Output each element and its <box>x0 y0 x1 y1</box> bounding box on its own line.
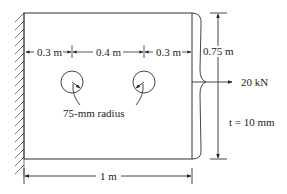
holes <box>61 71 155 105</box>
height-brace <box>192 13 206 159</box>
plate <box>24 13 192 159</box>
plate-diagram <box>0 0 287 194</box>
height-label: 0.75 m <box>202 46 235 57</box>
left-gap-label: 0.3 m <box>36 47 63 58</box>
fixed-wall-hatch <box>15 13 24 177</box>
load-label: 20 kN <box>240 77 269 88</box>
hole-radius-label: 75-mm radius <box>62 108 125 119</box>
vertical-dimension <box>210 13 227 159</box>
thickness-label: t = 10 mm <box>228 117 276 128</box>
width-label: 1 m <box>99 171 118 182</box>
hole-spacing-label: 0.4 m <box>95 47 122 58</box>
right-gap-label: 0.3 m <box>155 47 182 58</box>
